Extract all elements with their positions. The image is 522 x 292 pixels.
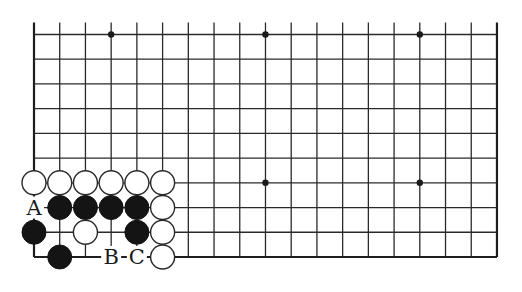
point-label-c: C — [129, 245, 145, 269]
black-stone — [99, 196, 123, 220]
point-label-a: A — [25, 196, 42, 220]
black-stone — [125, 196, 149, 220]
white-stone — [99, 171, 123, 195]
star-point-icon — [417, 180, 423, 186]
black-stone — [48, 196, 72, 220]
point-label-b: B — [103, 245, 118, 269]
go-board-diagram: ABC — [0, 0, 522, 292]
black-stone — [22, 220, 46, 244]
black-stone — [125, 220, 149, 244]
black-stone — [73, 196, 97, 220]
stones — [22, 171, 175, 269]
board-grid — [34, 23, 497, 257]
star-point-icon — [417, 31, 423, 37]
white-stone — [151, 220, 175, 244]
white-stone — [151, 245, 175, 269]
white-stone — [151, 171, 175, 195]
white-stone — [73, 171, 97, 195]
white-stone — [48, 171, 72, 195]
star-point-icon — [262, 31, 268, 37]
white-stone — [125, 171, 149, 195]
star-point-icon — [262, 180, 268, 186]
white-stone — [151, 196, 175, 220]
black-stone — [48, 245, 72, 269]
white-stone — [22, 171, 46, 195]
white-stone — [73, 220, 97, 244]
star-point-icon — [108, 31, 114, 37]
